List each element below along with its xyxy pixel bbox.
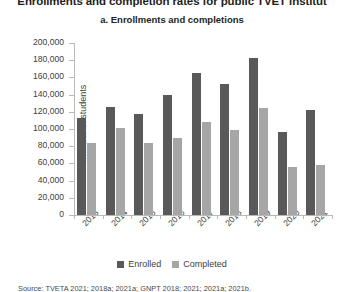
bar-completed-2019	[259, 108, 268, 215]
bar-completed-2021	[316, 165, 325, 215]
x-axis-line	[74, 215, 333, 216]
bar-completed-2020	[288, 167, 297, 215]
bar-enrolled-2015	[134, 114, 143, 215]
y-axis-tick-label: 0	[0, 209, 64, 219]
bar-group	[74, 43, 103, 215]
legend-swatch-icon	[117, 261, 124, 268]
plot-area: Number of students	[74, 43, 332, 215]
y-axis-tick-label: 200,000	[0, 37, 64, 47]
legend-label: Completed	[183, 259, 227, 269]
y-axis-tick-label: 20,000	[0, 192, 64, 202]
bar-group	[131, 43, 160, 215]
y-axis-tick-label: 160,000	[0, 71, 64, 81]
bar-enrolled-2018	[220, 84, 229, 215]
bar-enrolled-2013	[77, 118, 86, 215]
legend-swatch-icon	[172, 261, 179, 268]
legend-item-enrolled[interactable]: Enrolled	[117, 259, 161, 269]
legend-label: Enrolled	[128, 259, 161, 269]
bar-completed-2016	[173, 138, 182, 215]
bar-enrolled-2016	[163, 95, 172, 215]
chart-legend: EnrolledCompleted	[0, 259, 344, 269]
y-axis-tick-label: 80,000	[0, 140, 64, 150]
y-axis-tick-label: 120,000	[0, 106, 64, 116]
y-axis-tick-label: 140,000	[0, 89, 64, 99]
y-axis-tick-label: 60,000	[0, 157, 64, 167]
bar-group	[160, 43, 189, 215]
legend-item-completed[interactable]: Completed	[172, 259, 227, 269]
bar-group	[217, 43, 246, 215]
y-axis-tick-label: 40,000	[0, 175, 64, 185]
bar-enrolled-2017	[192, 73, 201, 215]
bar-group	[275, 43, 304, 215]
bar-enrolled-2020	[278, 132, 287, 215]
y-axis-tick-label: 180,000	[0, 54, 64, 64]
bar-completed-2015	[144, 143, 153, 215]
chart-figure: Enrollments and completion rates for pub…	[0, 0, 344, 292]
bar-group	[303, 43, 332, 215]
bar-completed-2017	[202, 122, 211, 215]
bar-completed-2018	[230, 130, 239, 215]
bar-group	[103, 43, 132, 215]
bar-enrolled-2014	[106, 107, 115, 215]
bar-enrolled-2021	[306, 110, 315, 215]
bar-completed-2013	[87, 143, 96, 215]
bar-group	[189, 43, 218, 215]
bar-group	[246, 43, 275, 215]
bar-completed-2014	[116, 128, 125, 215]
y-axis-tick-label: 100,000	[0, 123, 64, 133]
bar-enrolled-2019	[249, 58, 258, 215]
figure-source: Source: TVETA 2021; 2018a; 2021a; GNPT 2…	[18, 284, 338, 292]
